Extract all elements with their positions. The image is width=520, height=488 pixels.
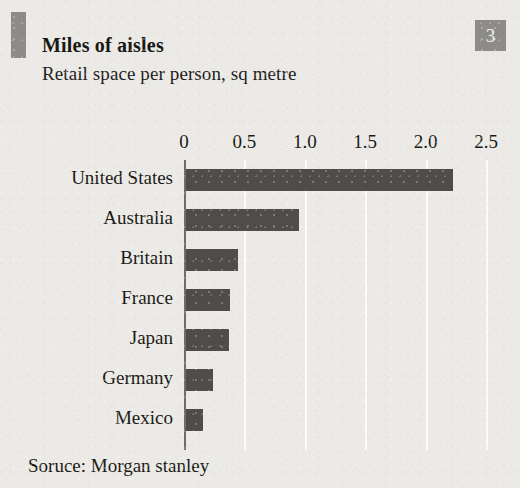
bar-row: Germany (184, 360, 486, 400)
corner-marker (11, 12, 26, 58)
x-tick-label: 0.5 (233, 131, 257, 153)
category-label: Mexico (115, 407, 173, 429)
bar-row: Britain (184, 240, 486, 280)
x-tick-label: 2.5 (474, 131, 498, 153)
bar-row: Japan (184, 320, 486, 360)
category-label: Britain (120, 247, 173, 269)
category-label: Germany (102, 367, 173, 389)
chart-title: Miles of aisles (42, 34, 164, 57)
category-label: United States (71, 167, 173, 189)
axis-baseline (184, 160, 186, 450)
x-tick-label: 0 (179, 131, 189, 153)
bar (184, 329, 229, 351)
x-tick-label: 1.0 (293, 131, 317, 153)
bar (184, 409, 203, 431)
bar (184, 249, 238, 271)
x-tick-label: 1.5 (353, 131, 377, 153)
chart-figure: 3 Miles of aisles Retail space per perso… (0, 0, 520, 488)
bar-rows: United StatesAustraliaBritainFranceJapan… (184, 160, 486, 450)
bar-row: Mexico (184, 400, 486, 440)
x-axis-tick-labels: 00.51.01.52.02.5 (184, 131, 486, 157)
bar-row: Australia (184, 200, 486, 240)
bar (184, 369, 213, 391)
chart-subtitle: Retail space per person, sq metre (42, 63, 296, 85)
plot-area: United StatesAustraliaBritainFranceJapan… (184, 160, 486, 450)
category-label: France (121, 287, 173, 309)
x-tick-label: 2.0 (414, 131, 438, 153)
bar (184, 289, 230, 311)
bar (184, 169, 453, 191)
bar (184, 209, 299, 231)
category-label: Japan (130, 327, 173, 349)
bar-row: United States (184, 160, 486, 200)
source-note: Soruce: Morgan stanley (28, 455, 209, 477)
gridline (486, 160, 488, 450)
category-label: Australia (103, 207, 173, 229)
bar-row: France (184, 280, 486, 320)
figure-number-badge: 3 (475, 20, 506, 51)
